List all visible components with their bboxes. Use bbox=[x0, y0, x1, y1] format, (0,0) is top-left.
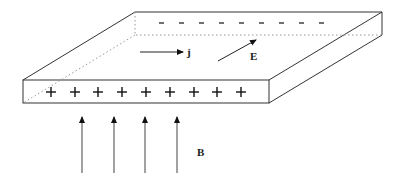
hall-effect-diagram: j E B bbox=[0, 0, 401, 182]
slab-right-face bbox=[269, 12, 382, 103]
magnetic-field-arrows bbox=[82, 117, 177, 173]
electric-field-label: E bbox=[250, 50, 257, 62]
hidden-edge-left bbox=[23, 35, 135, 103]
magnetic-field-label: B bbox=[197, 146, 205, 158]
positive-charges bbox=[46, 87, 246, 97]
slab-top-face bbox=[23, 12, 382, 80]
diagram-canvas: j E B bbox=[0, 0, 401, 182]
current-label: j bbox=[186, 46, 191, 58]
conductor-slab bbox=[23, 12, 382, 103]
hidden-edge-back bbox=[135, 12, 382, 35]
